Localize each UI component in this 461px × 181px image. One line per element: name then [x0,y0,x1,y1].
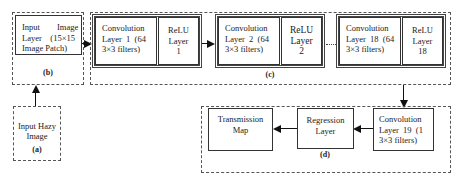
edge-conv19-to-regression [360,128,373,129]
node-conv19-line3: 3×3 filters) [379,135,429,146]
node-conv19-line1: Convolution [379,114,429,125]
node-relu2-line3: 2 [282,46,321,57]
node-relu18-line2: Layer [403,36,442,47]
arrowhead-left-icon [353,125,361,133]
node-input-layer-line2: Layer (15×15 [22,33,75,44]
edge-relu18-to-conv19 [403,85,404,101]
node-relu2-line1: ReLU [282,25,321,36]
edge-a-to-b [35,92,36,106]
node-relu2: ReLU Layer 2 [281,17,322,65]
node-relu18: ReLU Layer 18 [402,17,443,65]
group-a-label: (a) [13,145,61,154]
node-input-hazy-line2: Image [13,131,61,142]
edge-relu2-to-conv18 [326,44,336,45]
node-transmission-line1: Transmission [209,114,272,125]
group-c-label: (c) [255,70,285,79]
node-input-layer-line3: Image Patch) [22,43,75,54]
node-relu1: ReLU Layer 1 [158,17,199,65]
node-conv1-line3: 3×3 filters) [102,44,150,55]
arrowhead-left-icon [273,125,281,133]
node-conv1: Convolution Layer 1 (64 3×3 filters) [95,17,157,65]
node-relu18-line3: 18 [403,46,442,57]
node-relu18-line1: ReLU [403,25,442,36]
node-regression-line2: Layer [298,126,353,137]
node-conv19: Convolution Layer 19 (1 3×3 filters) [373,108,434,151]
node-conv18-line2: Layer 18 (64 [346,34,395,45]
node-conv1-line1: Convolution [102,23,150,34]
node-regression: Regression Layer [297,108,354,149]
node-transmission-line2: Map [209,125,272,136]
edge-regression-to-transmission [280,128,297,129]
node-conv2: Convolution Layer 2 (64 3×3 filters) [218,17,280,65]
node-input-hazy-line1: Input Hazy [13,121,61,132]
node-relu2-line2: Layer [282,36,321,47]
node-conv2-line2: Layer 2 (64 [225,34,273,45]
node-input-layer: Input Image Layer (15×15 Image Patch) [15,15,82,55]
arrowhead-up-icon [32,85,40,93]
node-conv18-line1: Convolution [346,23,395,34]
node-conv1-line2: Layer 1 (64 [102,34,150,45]
node-conv2-line1: Convolution [225,23,273,34]
node-conv18-line3: 3×3 filters) [346,44,395,55]
node-conv19-line2: Layer 19 (1 [379,125,429,136]
node-input-layer-line1: Input Image [22,22,75,33]
node-relu1-line2: Layer [159,36,198,47]
node-conv2-line3: 3×3 filters) [225,44,273,55]
group-d-label: (d) [310,150,340,159]
arrowhead-right-icon [207,40,215,48]
node-transmission: Transmission Map [208,108,273,151]
node-conv18: Convolution Layer 18 (64 3×3 filters) [339,17,401,65]
node-relu1-line3: 1 [159,46,198,57]
node-relu1-line1: ReLU [159,25,198,36]
group-b-label: (b) [12,68,84,77]
node-regression-line1: Regression [298,115,353,126]
